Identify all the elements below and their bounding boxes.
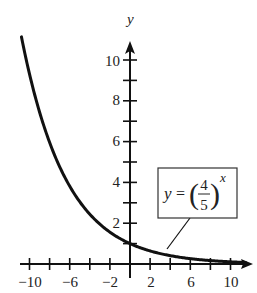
x-tick-label: −2 — [102, 274, 118, 290]
x-tick-label: 10 — [224, 274, 239, 290]
eq-lparen: ( — [189, 177, 199, 211]
eq-y: y — [162, 184, 172, 203]
x-tick-label: −10 — [18, 274, 41, 290]
y-tick-label: 6 — [113, 133, 121, 149]
decay-curve — [21, 37, 245, 263]
eq-denominator: 5 — [200, 197, 208, 213]
x-tick-label: −6 — [62, 274, 78, 290]
x-tick-label: 2 — [147, 274, 155, 290]
y-tick-label: 10 — [105, 53, 120, 69]
y-tick-label: 4 — [113, 174, 121, 190]
y-tick-label: 8 — [113, 92, 121, 108]
eq-rparen: ) — [210, 177, 220, 211]
eq-exponent: x — [219, 170, 226, 185]
y-tick-label: 2 — [113, 215, 121, 231]
y-axis-label: y — [125, 11, 134, 27]
eq-equals: = — [176, 185, 185, 202]
eq-numerator: 4 — [200, 177, 208, 193]
x-tick-label: 6 — [187, 274, 195, 290]
exponential-decay-chart: −10 −6 −2 2 6 10 2 4 6 8 10 y y = ( 4 5 … — [0, 0, 257, 293]
annotation-leader-line — [167, 218, 190, 249]
